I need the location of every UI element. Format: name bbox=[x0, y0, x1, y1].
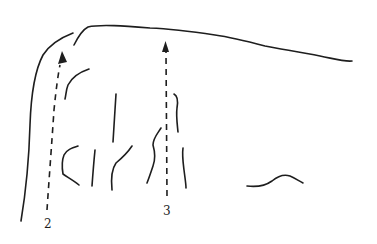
vertical-line-a bbox=[113, 94, 116, 142]
bump-curve bbox=[247, 175, 303, 186]
s-curve-middle bbox=[111, 146, 132, 190]
arrow-2-label: 2 bbox=[44, 218, 52, 230]
arrow-3-head-icon bbox=[162, 41, 169, 52]
arrow-2-head-icon bbox=[58, 51, 67, 64]
top-contour bbox=[74, 25, 352, 61]
vertical-line-b bbox=[92, 150, 95, 186]
inner-curve bbox=[65, 69, 89, 99]
bracket-shape bbox=[62, 146, 79, 185]
wavy-line-right-lower bbox=[183, 148, 186, 188]
wavy-line-right-upper bbox=[174, 94, 178, 132]
arrow-3-label: 3 bbox=[163, 205, 171, 217]
s-curve-left-of-arrow-3 bbox=[147, 128, 161, 183]
line-sketch-diagram bbox=[0, 0, 377, 244]
dashed-arrow-2-shaft bbox=[47, 65, 60, 210]
dashed-arrow-3-shaft bbox=[166, 52, 167, 196]
